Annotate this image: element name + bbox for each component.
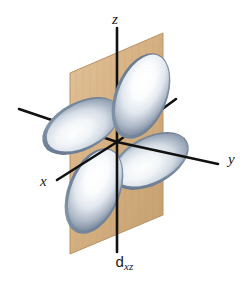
z-axis-label: z xyxy=(112,12,118,27)
orbital-symbol: d xyxy=(116,253,124,270)
x-axis-label: x xyxy=(40,174,47,189)
orbital-figure: z y x dxz xyxy=(0,0,249,286)
orbital-diagram xyxy=(0,0,249,286)
orbital-subscript: xz xyxy=(124,260,134,272)
orbital-caption: dxz xyxy=(0,254,249,272)
y-axis-label: y xyxy=(228,152,235,167)
